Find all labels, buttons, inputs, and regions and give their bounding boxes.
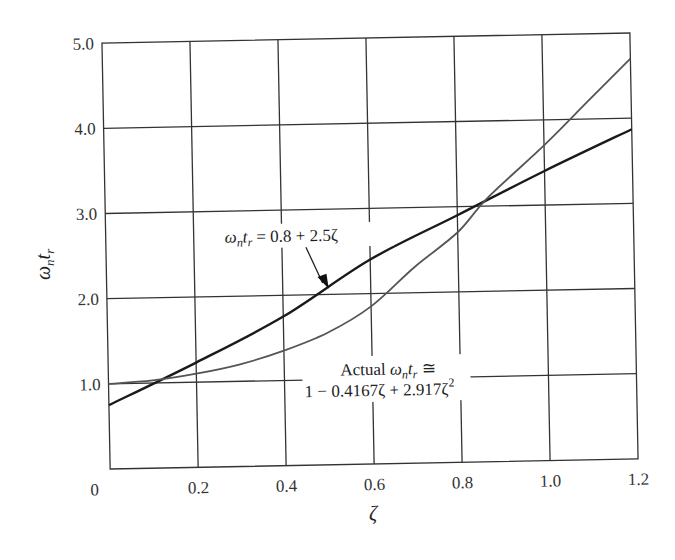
plot-area: 00.20.40.60.81.01.2 1.02.03.04.05.0 ωntr…	[73, 24, 650, 500]
grid-line-vertical	[190, 41, 198, 467]
x-axis-label: ζ	[369, 502, 379, 525]
x-tick-label: 0.2	[188, 478, 210, 497]
y-axis-label: ωntr	[32, 248, 57, 280]
x-tick-label: 0.8	[452, 473, 474, 492]
x-tick-label: 0	[90, 480, 99, 499]
grid-line-vertical	[278, 40, 286, 466]
y-tick-label: 4.0	[74, 119, 96, 138]
y-tick-label: 5.0	[73, 34, 95, 53]
x-tick-label: 0.4	[276, 476, 298, 495]
chart: 00.20.40.60.81.01.2 1.02.03.04.05.0 ωntr…	[0, 0, 675, 560]
x-tick-labels: 00.20.40.60.81.01.2	[90, 470, 649, 500]
y-tick-labels: 1.02.03.04.05.0	[73, 34, 101, 394]
x-tick-label: 0.6	[364, 475, 386, 494]
grid-lines	[102, 33, 638, 469]
x-tick-label: 1.2	[628, 470, 650, 489]
y-tick-label: 2.0	[77, 290, 99, 309]
y-tick-label: 1.0	[79, 375, 101, 394]
annotation-arrow	[306, 247, 329, 289]
y-tick-label: 3.0	[76, 205, 98, 224]
x-tick-label: 1.0	[540, 471, 562, 490]
grid-line-vertical	[542, 35, 550, 461]
